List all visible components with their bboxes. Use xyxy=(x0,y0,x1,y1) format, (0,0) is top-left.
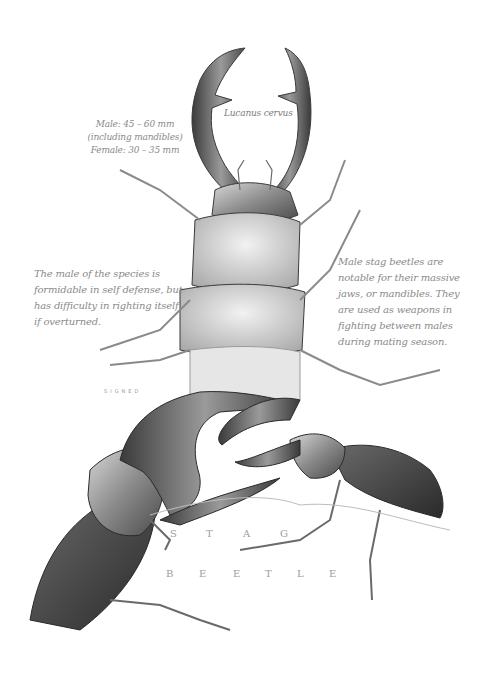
right-annotation: Male stag beetles are notable for their … xyxy=(338,254,468,350)
title-letter: S xyxy=(170,528,177,539)
stag-beetle-illustration: Male: 45 – 60 mm (including mandibles) F… xyxy=(0,0,484,673)
title-letter: G xyxy=(280,528,288,539)
size-note: (including mandibles) xyxy=(80,131,190,144)
title-letter: E xyxy=(199,568,206,579)
title-letter: L xyxy=(297,568,304,579)
title-word-beetle: B E E T L E xyxy=(0,568,484,582)
title-letter: T xyxy=(265,568,272,579)
title-letter: E xyxy=(329,568,336,579)
artist-signature: SIGNED xyxy=(104,388,141,394)
title-letter: E xyxy=(233,568,240,579)
title-letter: T xyxy=(206,528,213,539)
title-letter: B xyxy=(166,568,173,579)
species-name: Lucanus cervus xyxy=(224,108,293,118)
left-annotation: The male of the species is formidable in… xyxy=(34,266,184,330)
title-word-stag: S T A G xyxy=(0,528,484,542)
size-annotation: Male: 45 – 60 mm (including mandibles) F… xyxy=(80,118,190,157)
size-male: Male: 45 – 60 mm xyxy=(80,118,190,131)
title-letter: A xyxy=(243,528,250,539)
size-female: Female: 30 – 35 mm xyxy=(80,144,190,157)
